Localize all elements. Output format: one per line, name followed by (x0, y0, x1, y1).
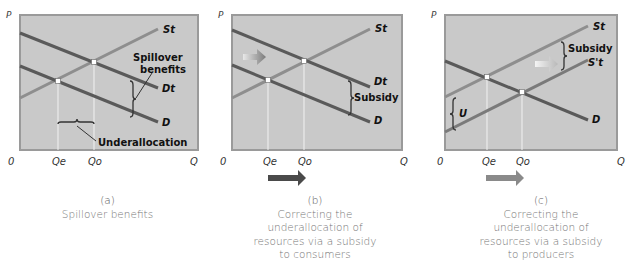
caption-a: (a) Spillover benefits (40, 194, 175, 221)
spillover-label-2: benefits (140, 64, 186, 75)
output-increase-arrow-icon (486, 170, 524, 186)
caption-line: resources via a subsidy (240, 235, 390, 249)
panel-c (445, 15, 617, 186)
optimum-point-b (302, 59, 307, 64)
origin-label-c: 0 (437, 156, 443, 167)
price-axis-label-c: P (431, 10, 437, 20)
caption-line: underallocation of (466, 221, 616, 235)
caption-letter-c: (c) (466, 194, 616, 208)
origin-label-b: 0 (220, 156, 226, 167)
supply-shifted-label-c: S't (588, 57, 604, 68)
price-axis-label-b: P (218, 10, 224, 20)
supply-label-a: St (163, 24, 176, 35)
underallocation-label: Underallocation (98, 137, 187, 148)
qo-label-c: Qo (516, 156, 530, 167)
supply-label-b: St (375, 23, 388, 34)
demand-total-label-a: Dt (162, 83, 176, 94)
caption-line: underallocation of (240, 221, 390, 235)
caption-line: Correcting the (466, 208, 616, 222)
equilibrium-point-b (266, 78, 271, 83)
demand-label-b: D (374, 115, 382, 126)
caption-c: (c) Correcting the underallocation of re… (466, 194, 616, 262)
caption-line: Correcting the (240, 208, 390, 222)
u-label: U (459, 108, 467, 119)
qo-label-b: Qo (298, 156, 312, 167)
caption-letter-a: (a) (40, 194, 175, 208)
quantity-axis-label-c: Q (617, 156, 625, 167)
caption-line: Spillover benefits (40, 208, 175, 222)
caption-letter-b: (b) (240, 194, 390, 208)
plot-area-c (445, 15, 617, 150)
quantity-axis-label-a: Q (190, 156, 198, 167)
quantity-axis-label-b: Q (400, 156, 408, 167)
caption-line: to producers (466, 248, 616, 262)
qe-label-a: Qe (52, 156, 66, 167)
qe-label-c: Qe (482, 156, 496, 167)
supply-label-c: St (593, 21, 606, 32)
optimum-point-c (520, 90, 525, 95)
demand-label-a: D (162, 117, 170, 128)
output-increase-arrow-icon (268, 170, 306, 186)
subsidy-label-b: Subsidy (354, 92, 399, 103)
caption-line: to consumers (240, 248, 390, 262)
origin-label-a: 0 (8, 156, 14, 167)
demand-label-c: D (592, 114, 600, 125)
qo-label-a: Qo (88, 156, 102, 167)
caption-b: (b) Correcting the underallocation of re… (240, 194, 390, 262)
qe-label-b: Qe (263, 156, 277, 167)
demand-total-label-b: Dt (374, 76, 388, 87)
subsidy-label-c: Subsidy (568, 43, 613, 54)
equilibrium-point-a (56, 79, 61, 84)
equilibrium-point-c (485, 75, 490, 80)
spillover-label-1: Spillover (133, 52, 183, 63)
optimum-point-a (92, 60, 97, 65)
price-axis-label-a: P (6, 10, 12, 20)
caption-line: resources via a subsidy (466, 235, 616, 249)
